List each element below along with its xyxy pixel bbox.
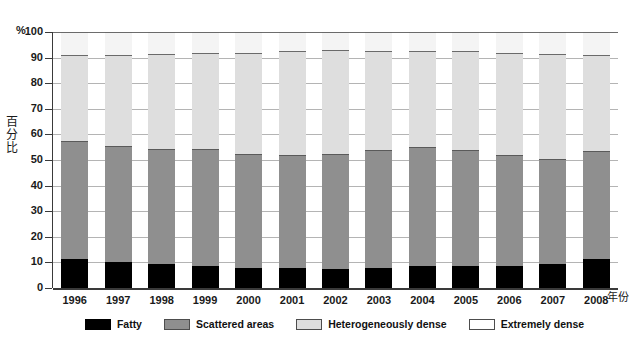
bar-2006[interactable]: [496, 32, 523, 288]
segment-extremely-dense[interactable]: [583, 32, 610, 55]
y-tick-70: [45, 109, 52, 110]
bar-1999[interactable]: [192, 32, 219, 288]
segment-extremely-dense[interactable]: [365, 32, 392, 51]
segment-scattered-areas[interactable]: [365, 150, 392, 268]
segment-fatty[interactable]: [105, 262, 132, 288]
bar-2008[interactable]: [583, 32, 610, 288]
segment-scattered-areas[interactable]: [61, 141, 88, 259]
segment-heterogeneously-dense[interactable]: [279, 51, 306, 155]
segment-fatty[interactable]: [539, 264, 566, 288]
segment-heterogeneously-dense[interactable]: [583, 55, 610, 151]
segment-fatty[interactable]: [148, 264, 175, 288]
segment-fatty[interactable]: [365, 268, 392, 288]
segment-scattered-areas[interactable]: [452, 150, 479, 266]
legend-item-scattered-areas[interactable]: Scattered areas: [164, 318, 274, 330]
bar-1998[interactable]: [148, 32, 175, 288]
bar-2007[interactable]: [539, 32, 566, 288]
y-tick-50: [45, 160, 52, 161]
hetero-swatch: [296, 319, 322, 330]
segment-scattered-areas[interactable]: [322, 154, 349, 269]
bar-1996[interactable]: [61, 32, 88, 288]
segment-heterogeneously-dense[interactable]: [496, 53, 523, 155]
bar-2005[interactable]: [452, 32, 479, 288]
segment-heterogeneously-dense[interactable]: [235, 53, 262, 154]
segment-extremely-dense[interactable]: [496, 32, 523, 52]
bar-2004[interactable]: [409, 32, 436, 288]
segment-heterogeneously-dense[interactable]: [409, 51, 436, 147]
segment-fatty[interactable]: [409, 266, 436, 288]
segment-extremely-dense[interactable]: [192, 32, 219, 52]
segment-heterogeneously-dense[interactable]: [105, 55, 132, 146]
y-tick-label-80: 80: [5, 76, 43, 88]
segment-fatty[interactable]: [192, 266, 219, 288]
segment-fatty[interactable]: [235, 268, 262, 288]
segment-heterogeneously-dense[interactable]: [61, 55, 88, 141]
scattered-swatch: [164, 319, 190, 330]
segment-extremely-dense[interactable]: [235, 32, 262, 52]
legend-item-extremely-dense[interactable]: Extremely dense: [469, 318, 584, 330]
segment-fatty[interactable]: [279, 268, 306, 288]
y-tick-label-50: 50: [5, 153, 43, 165]
segment-heterogeneously-dense[interactable]: [365, 51, 392, 150]
segment-fatty[interactable]: [452, 266, 479, 288]
legend-label: Extremely dense: [501, 318, 584, 330]
segment-scattered-areas[interactable]: [583, 151, 610, 259]
legend-item-fatty[interactable]: Fatty: [85, 318, 142, 330]
segment-extremely-dense[interactable]: [279, 32, 306, 51]
segment-scattered-areas[interactable]: [148, 149, 175, 264]
bar-2001[interactable]: [279, 32, 306, 288]
segment-scattered-areas[interactable]: [192, 149, 219, 267]
x-tick-label-1997: 1997: [94, 294, 142, 306]
legend-label: Scattered areas: [196, 318, 274, 330]
segment-scattered-areas[interactable]: [105, 146, 132, 262]
extreme-swatch: [469, 319, 495, 330]
y-tick-label-20: 20: [5, 230, 43, 242]
y-tick-90: [45, 58, 52, 59]
segment-extremely-dense[interactable]: [61, 32, 88, 55]
bar-2002[interactable]: [322, 32, 349, 288]
gridline-0: [53, 288, 618, 290]
segment-fatty[interactable]: [322, 269, 349, 288]
bar-2003[interactable]: [365, 32, 392, 288]
bar-1997[interactable]: [105, 32, 132, 288]
segment-extremely-dense[interactable]: [539, 32, 566, 54]
y-tick-label-90: 90: [5, 51, 43, 63]
segment-heterogeneously-dense[interactable]: [452, 51, 479, 150]
segment-extremely-dense[interactable]: [452, 32, 479, 51]
segment-extremely-dense[interactable]: [409, 32, 436, 51]
plot-area: 0102030405060708090100 19961997199819992…: [52, 32, 618, 288]
y-tick-60: [45, 134, 52, 135]
y-tick-10: [45, 262, 52, 263]
segment-scattered-areas[interactable]: [496, 155, 523, 266]
segment-fatty[interactable]: [61, 259, 88, 288]
segment-extremely-dense[interactable]: [322, 32, 349, 50]
segment-extremely-dense[interactable]: [148, 32, 175, 54]
legend-item-heterogeneously-dense[interactable]: Heterogeneously dense: [296, 318, 446, 330]
segment-scattered-areas[interactable]: [235, 154, 262, 268]
segment-heterogeneously-dense[interactable]: [148, 54, 175, 149]
y-tick-label-10: 10: [5, 255, 43, 267]
segment-heterogeneously-dense[interactable]: [192, 53, 219, 149]
fatty-swatch: [85, 319, 111, 330]
segment-fatty[interactable]: [583, 259, 610, 288]
segment-extremely-dense[interactable]: [105, 32, 132, 55]
x-tick-label-2001: 2001: [268, 294, 316, 306]
segment-heterogeneously-dense[interactable]: [539, 54, 566, 159]
bar-2000[interactable]: [235, 32, 262, 288]
x-tick-label-2007: 2007: [529, 294, 577, 306]
y-tick-30: [45, 211, 52, 212]
segment-scattered-areas[interactable]: [539, 159, 566, 264]
x-tick-label-1998: 1998: [138, 294, 186, 306]
segment-scattered-areas[interactable]: [279, 155, 306, 268]
x-tick-label-2004: 2004: [398, 294, 446, 306]
chart-legend: FattyScattered areasHeterogeneously dens…: [52, 318, 617, 330]
segment-heterogeneously-dense[interactable]: [322, 50, 349, 154]
x-tick-label-2006: 2006: [485, 294, 533, 306]
y-tick-80: [45, 83, 52, 84]
y-tick-100: [45, 32, 52, 33]
segment-scattered-areas[interactable]: [409, 147, 436, 266]
x-tick-label-2005: 2005: [442, 294, 490, 306]
x-tick-label-2000: 2000: [225, 294, 273, 306]
segment-fatty[interactable]: [496, 266, 523, 288]
y-tick-label-70: 70: [5, 102, 43, 114]
